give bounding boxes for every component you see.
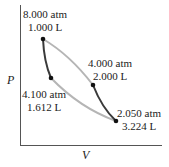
volume-a: 1.000 L — [23, 21, 67, 34]
pressure-c: 4.000 atm — [88, 57, 132, 70]
pressure-d: 2.050 atm — [117, 107, 161, 120]
volume-b: 1.612 L — [22, 101, 66, 114]
pressure-a: 8.000 atm — [23, 8, 67, 21]
point-c — [91, 83, 96, 88]
pressure-b: 4.100 atm — [22, 88, 66, 101]
label-point-b: 4.100 atm 1.612 L — [22, 88, 66, 114]
label-point-c: 4.000 atm 2.000 L — [88, 57, 132, 83]
x-axis-label: V — [82, 148, 89, 163]
label-point-a: 8.000 atm 1.000 L — [23, 8, 67, 34]
y-axis-label: P — [7, 73, 14, 88]
point-a — [41, 37, 46, 42]
point-b — [49, 76, 54, 81]
volume-c: 2.000 L — [88, 70, 132, 83]
label-point-d: 2.050 atm 3.224 L — [117, 107, 161, 133]
volume-d: 3.224 L — [117, 120, 161, 133]
adiabat-left — [43, 39, 51, 78]
